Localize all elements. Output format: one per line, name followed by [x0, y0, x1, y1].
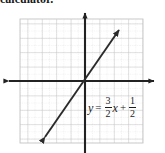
graph-screenshot: calculator.	[0, 0, 165, 153]
graph-svg	[0, 0, 165, 153]
intercept-denominator: 2	[129, 108, 136, 119]
slope-denominator: 2	[105, 108, 112, 119]
equation-lhs: y	[88, 102, 93, 114]
equation-variable: x	[113, 102, 118, 114]
equation-plus: +	[120, 102, 126, 113]
equation-label: y = 3 2 x + 1 2	[88, 96, 137, 119]
equation-equals: =	[95, 102, 101, 113]
coordinate-graph	[0, 0, 165, 153]
intercept-fraction: 1 2	[129, 96, 136, 119]
slope-numerator: 3	[105, 96, 112, 107]
intercept-numerator: 1	[129, 96, 136, 107]
slope-fraction: 3 2	[105, 96, 112, 119]
